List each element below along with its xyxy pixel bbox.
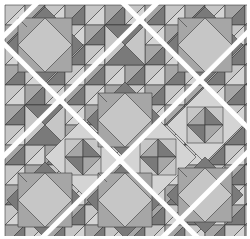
quilt-image [0, 0, 250, 239]
quilt-block-hourglass [105, 25, 145, 65]
quilt-block-square-in-square [87, 162, 163, 238]
quilt-block-square-in-square [7, 162, 83, 238]
quilt-block-hourglass [25, 105, 65, 145]
